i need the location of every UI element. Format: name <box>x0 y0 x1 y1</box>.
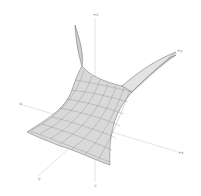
x-pos-label: +x <box>178 150 184 155</box>
surface <box>27 25 176 165</box>
z-neg-label: -z <box>93 183 97 188</box>
z-pos-label: +z <box>93 12 98 17</box>
x-neg-label: -x <box>18 101 22 106</box>
y-pos-label: +y <box>177 48 183 53</box>
y-neg-label: -y <box>37 176 41 181</box>
surface-plot-svg <box>0 0 201 196</box>
plot-3d: +z -z +y -y +x -x <box>0 0 201 196</box>
